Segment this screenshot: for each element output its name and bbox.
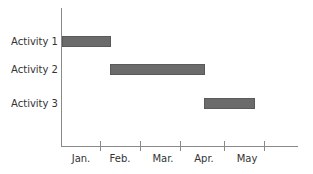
x-tick	[100, 141, 101, 151]
x-tick	[264, 141, 265, 151]
bar-activity-1	[62, 36, 111, 47]
x-tick	[140, 141, 141, 151]
x-label-mar: Mar.	[143, 153, 183, 165]
x-tick	[180, 141, 181, 151]
x-label-jan: Jan.	[61, 153, 101, 165]
bar-activity-2	[110, 64, 205, 75]
x-label-apr: Apr.	[184, 153, 224, 165]
y-label-activity-1: Activity 1	[0, 36, 58, 48]
x-label-may: May	[227, 153, 267, 165]
x-tick	[224, 141, 225, 151]
y-label-activity-2: Activity 2	[0, 64, 58, 76]
y-label-activity-3: Activity 3	[0, 98, 58, 110]
x-label-feb: Feb.	[100, 153, 140, 165]
y-axis	[61, 8, 62, 147]
bar-activity-3	[204, 98, 255, 109]
